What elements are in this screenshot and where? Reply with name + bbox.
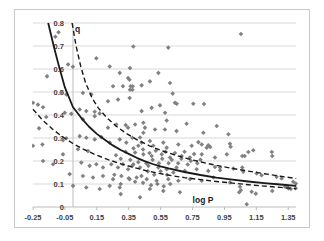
x-tick-label: 1.35 bbox=[281, 213, 296, 222]
x-tick-label: -0.25 bbox=[24, 213, 41, 222]
chart-canvas: 00.10.20.30.40.50.60.70.8-0.25-0.050.150… bbox=[0, 0, 324, 241]
scatter-chart: 00.10.20.30.40.50.60.70.8-0.25-0.050.150… bbox=[0, 0, 324, 241]
x-tick-label: 0.95 bbox=[217, 213, 232, 222]
x-tick-label: -0.05 bbox=[56, 213, 73, 222]
y-tick-label: 0 bbox=[60, 203, 64, 212]
x-tick-label: 0.75 bbox=[185, 213, 200, 222]
y-tick-label: 0.8 bbox=[54, 19, 64, 28]
x-tick-label: 1.15 bbox=[249, 213, 264, 222]
y-axis-title: q bbox=[75, 24, 80, 34]
x-tick-label: 0.15 bbox=[89, 213, 104, 222]
y-tick-label: 0.1 bbox=[54, 180, 64, 189]
x-tick-label: 0.35 bbox=[121, 213, 136, 222]
y-tick-label: 0.4 bbox=[54, 111, 65, 120]
x-axis-title: log P bbox=[193, 195, 214, 205]
x-tick-label: 0.55 bbox=[153, 213, 168, 222]
